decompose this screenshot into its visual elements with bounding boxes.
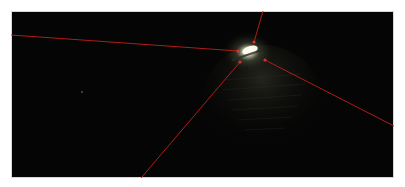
left-line bbox=[11, 35, 238, 51]
faint-dot bbox=[81, 91, 83, 93]
scene-overlay bbox=[0, 0, 405, 187]
dark-spot bbox=[244, 66, 248, 70]
